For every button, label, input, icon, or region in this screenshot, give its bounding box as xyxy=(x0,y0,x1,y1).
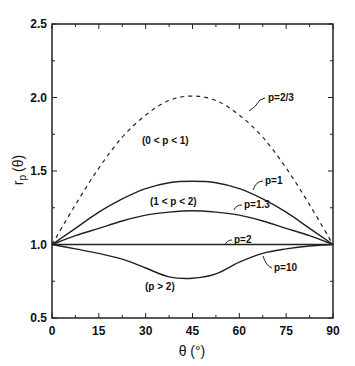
y-tick-labels: 0.5 1.0 1.5 2.0 2.5 xyxy=(30,17,47,325)
label-p-10: p=10 xyxy=(274,262,298,273)
label-p-2-3: p=2/3 xyxy=(268,92,294,103)
curves xyxy=(52,96,333,279)
x-tick-label: 90 xyxy=(326,324,340,338)
label-region-high: (p > 2) xyxy=(145,281,175,292)
x-tick-label: 0 xyxy=(49,324,56,338)
y-axis-title: rp(θ) xyxy=(10,155,28,185)
y-tick-label: 0.5 xyxy=(30,311,47,325)
plot-frame xyxy=(52,24,333,318)
curve-p-1 xyxy=(52,181,333,244)
y-tick-label: 2.0 xyxy=(30,91,47,105)
chart: 0 15 30 45 60 75 90 0.5 1.0 1.5 2.0 2.5 … xyxy=(0,0,355,366)
label-p-1: p=1 xyxy=(265,175,283,186)
curve-p-2-3 xyxy=(52,96,333,244)
y-axis-ticks xyxy=(52,24,333,318)
y-axis-title-sub: p xyxy=(17,175,28,181)
y-tick-label: 1.5 xyxy=(30,164,47,178)
x-tick-label: 15 xyxy=(92,324,106,338)
label-region-low: (0 < p < 1) xyxy=(142,135,189,146)
svg-text:rp(θ): rp(θ) xyxy=(10,155,28,185)
x-tick-label: 45 xyxy=(186,324,200,338)
y-axis-title-arg: (θ) xyxy=(10,155,26,172)
leader-p-2-3 xyxy=(249,98,265,111)
label-p-1-3: p=1.3 xyxy=(244,199,270,210)
y-tick-label: 1.0 xyxy=(30,238,47,252)
label-p-2: p=2 xyxy=(234,234,252,245)
x-tick-labels: 0 15 30 45 60 75 90 xyxy=(49,324,340,338)
leader-p-1 xyxy=(253,181,263,190)
x-tick-label: 60 xyxy=(233,324,247,338)
y-tick-label: 2.5 xyxy=(30,17,47,31)
label-region-mid: (1 < p < 2) xyxy=(150,196,197,207)
x-axis-title: θ (°) xyxy=(179,343,206,359)
x-tick-label: 30 xyxy=(139,324,153,338)
leader-p-10 xyxy=(263,256,272,268)
leader-p-1-3 xyxy=(234,205,242,210)
x-axis-ticks xyxy=(52,24,333,318)
x-tick-label: 75 xyxy=(280,324,294,338)
